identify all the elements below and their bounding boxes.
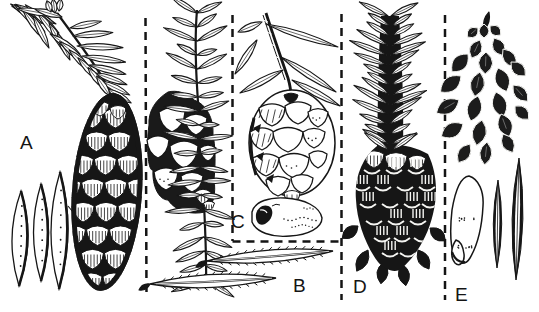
- plate-svg: A B C D E: [0, 0, 539, 312]
- botanical-plate: A B C D E: [0, 0, 539, 312]
- panel-b-label: B: [293, 275, 306, 296]
- panel-c-label: C: [231, 211, 245, 232]
- panel-d-label: D: [353, 276, 367, 297]
- panel-e-label: E: [455, 284, 468, 305]
- panel-a-label: A: [20, 132, 33, 153]
